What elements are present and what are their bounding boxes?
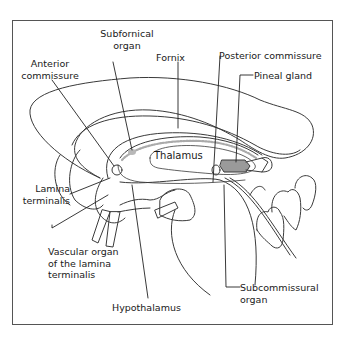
pineal-gland-shape xyxy=(220,160,250,172)
fornix-curve xyxy=(72,116,300,154)
label-thalamus: Thalamus xyxy=(154,150,203,162)
brainstem-outline xyxy=(120,179,256,285)
cerebellum-folia xyxy=(257,207,284,248)
label-posterior-commissure: Posterior commissure xyxy=(219,50,322,62)
label-pineal-gland: Pineal gland xyxy=(254,70,312,82)
label-subfornical-organ: Subfornical organ xyxy=(87,28,167,51)
label-vascular-organ-of-lamina-terminalis: Vascular organ of the lamina terminalis xyxy=(48,246,119,281)
label-lamina-terminalis: Lamina terminalis xyxy=(18,183,70,206)
label-subcommissural-organ: Subcommissural organ xyxy=(240,282,319,305)
label-fornix: Fornix xyxy=(156,52,185,64)
label-anterior-commissure: Anterior commissure xyxy=(20,58,80,81)
label-hypothalamus: Hypothalamus xyxy=(112,302,181,314)
anterior-commissure-shape xyxy=(112,165,122,175)
pituitary-shape xyxy=(160,189,195,221)
